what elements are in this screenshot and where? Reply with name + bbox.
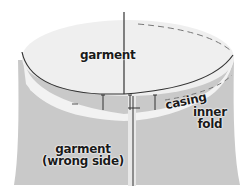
garment-label: garment <box>80 49 135 61</box>
casing-illustration <box>0 0 248 195</box>
wrong-side-label: garment (wrong side) <box>42 143 124 167</box>
inner-fold-line2: fold <box>193 118 227 130</box>
wrong-side-line2: (wrong side) <box>42 155 124 167</box>
inner-fold-label: inner fold <box>193 106 227 130</box>
